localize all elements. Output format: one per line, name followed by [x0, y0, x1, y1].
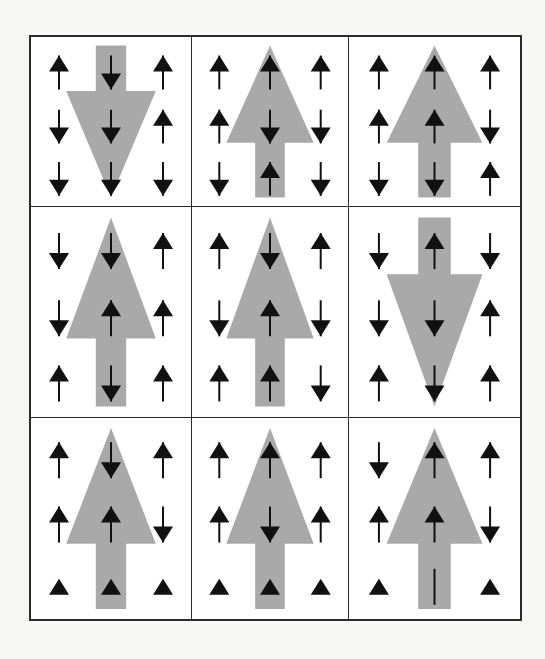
up-arrow-icon: [153, 233, 173, 269]
block-r2-c2: [192, 207, 349, 418]
up-triangle-icon: [480, 579, 500, 595]
up-arrow-icon: [49, 507, 69, 543]
up-arrow-icon: [209, 233, 229, 269]
up-arrow-icon: [311, 507, 331, 543]
down-arrow-icon: [480, 110, 500, 144]
up-arrow-icon: [49, 365, 69, 401]
up-arrow-icon: [311, 233, 331, 269]
up-arrow-icon: [369, 110, 389, 144]
down-arrow-icon: [153, 162, 173, 196]
down-arrow-icon: [153, 507, 173, 543]
down-arrow-icon: [311, 162, 331, 196]
down-arrow-icon: [369, 162, 389, 196]
down-arrow-icon: [480, 507, 500, 543]
up-triangle-icon: [311, 579, 331, 595]
down-arrow-icon: [209, 162, 229, 196]
up-arrow-icon: [480, 56, 500, 90]
block-drawing: [192, 37, 348, 206]
block-r2-c1: [31, 207, 192, 418]
down-arrow-icon: [311, 110, 331, 144]
up-arrow-icon: [480, 442, 500, 478]
up-arrow-icon: [153, 300, 173, 336]
up-arrow-icon: [311, 442, 331, 478]
block-r2-c3: [349, 207, 520, 418]
up-arrow-icon: [49, 442, 69, 478]
block-drawing: [192, 418, 348, 619]
up-arrow-icon: [153, 365, 173, 401]
down-arrow-icon: [311, 365, 331, 401]
up-arrow-icon: [209, 365, 229, 401]
block-drawing: [31, 418, 191, 619]
up-arrow-icon: [209, 442, 229, 478]
down-arrow-icon: [369, 442, 389, 478]
up-triangle-icon: [369, 579, 389, 595]
up-arrow-icon: [209, 507, 229, 543]
block-drawing: [349, 37, 520, 206]
up-arrow-icon: [153, 442, 173, 478]
block-r1-c1: [31, 37, 192, 207]
block-grid: [29, 35, 522, 621]
up-arrow-icon: [153, 56, 173, 90]
block-r3-c3: [349, 418, 520, 619]
down-arrow-icon: [49, 300, 69, 336]
down-arrow-icon: [480, 233, 500, 269]
up-arrow-icon: [480, 365, 500, 401]
up-arrow-icon: [480, 162, 500, 196]
block-drawing: [349, 207, 520, 417]
down-arrow-icon: [49, 162, 69, 196]
up-arrow-icon: [369, 56, 389, 90]
down-arrow-icon: [369, 300, 389, 336]
up-arrow-icon: [49, 56, 69, 90]
up-triangle-icon: [209, 579, 229, 595]
up-arrow-icon: [480, 300, 500, 336]
up-arrow-icon: [369, 365, 389, 401]
block-drawing: [31, 37, 191, 206]
up-arrow-icon: [209, 110, 229, 144]
down-arrow-icon: [369, 233, 389, 269]
block-r3-c2: [192, 418, 349, 619]
block-drawing: [349, 418, 520, 619]
up-arrow-icon: [369, 507, 389, 543]
down-arrow-icon: [311, 300, 331, 336]
block-r1-c3: [349, 37, 520, 207]
up-triangle-icon: [153, 579, 173, 595]
block-r3-c1: [31, 418, 192, 619]
block-drawing: [192, 207, 348, 417]
block-drawing: [31, 207, 191, 417]
up-arrow-icon: [311, 56, 331, 90]
down-arrow-icon: [209, 300, 229, 336]
down-arrow-icon: [49, 110, 69, 144]
block-r1-c2: [192, 37, 349, 207]
up-arrow-icon: [153, 110, 173, 144]
up-triangle-icon: [49, 579, 69, 595]
down-arrow-icon: [49, 233, 69, 269]
up-arrow-icon: [209, 56, 229, 90]
